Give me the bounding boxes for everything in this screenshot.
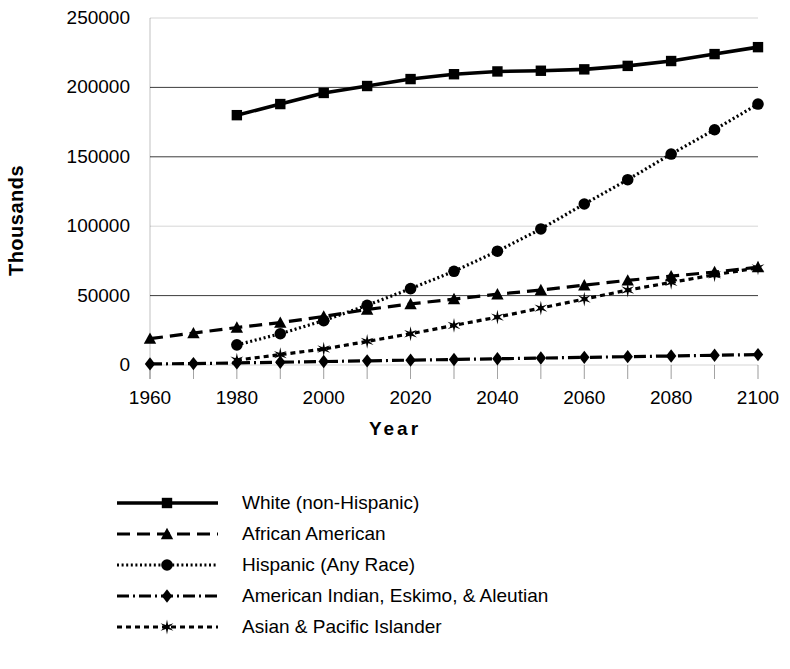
legend-item[interactable]: Hispanic (Any Race) (115, 549, 735, 580)
data-point (448, 318, 461, 333)
data-point (579, 351, 589, 364)
data-point (274, 328, 286, 340)
x-tick-label: 2100 (723, 388, 790, 407)
data-point (448, 266, 460, 278)
series-1 (232, 42, 764, 120)
legend-label: African American (242, 523, 386, 545)
data-point (449, 69, 459, 79)
data-point (709, 49, 719, 59)
legend-label: Hispanic (Any Race) (242, 554, 415, 576)
data-point (579, 64, 589, 74)
y-tick-label: 0 (20, 355, 130, 374)
legend-label: White (non-Hispanic) (242, 492, 419, 514)
data-point (188, 357, 198, 370)
data-point (666, 349, 676, 362)
x-tick-label: 2080 (636, 388, 706, 407)
data-point (535, 223, 547, 235)
data-point (319, 355, 329, 368)
population-projection-chart: Thousands 050000100000150000200000250000… (0, 0, 790, 669)
data-point (665, 148, 677, 160)
series-5 (230, 260, 764, 367)
y-tick-label: 100000 (20, 216, 130, 235)
legend-label: Asian & Pacific Islander (242, 616, 442, 638)
data-point (491, 310, 504, 325)
data-point (578, 292, 591, 307)
data-point (622, 174, 634, 186)
data-point (405, 283, 417, 295)
data-point (666, 56, 676, 66)
y-tick-label: 250000 (20, 8, 130, 27)
legend-key-square-icon (115, 492, 220, 514)
y-tick-label: 200000 (20, 77, 130, 96)
y-axis-tick-labels: 050000100000150000200000250000 (8, 0, 130, 400)
data-point (492, 245, 504, 257)
data-point (623, 61, 633, 71)
legend-key-star-icon (115, 616, 220, 638)
y-tick-label: 50000 (20, 286, 130, 305)
series-line (237, 104, 758, 345)
data-point (275, 99, 285, 109)
data-point (319, 88, 329, 98)
legend-key-diamond-icon (115, 585, 220, 607)
legend-label: American Indian, Eskimo, & Aleutian (242, 585, 548, 607)
data-point (362, 81, 372, 91)
data-point (232, 110, 242, 120)
x-tick-label: 1960 (115, 388, 185, 407)
data-point (492, 66, 502, 76)
data-point (536, 66, 546, 76)
chart-legend: White (non-Hispanic)African AmericanHisp… (115, 487, 735, 642)
data-point (492, 352, 502, 365)
data-point (449, 353, 459, 366)
data-point (405, 74, 415, 84)
x-tick-label: 2060 (549, 388, 619, 407)
legend-item[interactable]: American Indian, Eskimo, & Aleutian (115, 580, 735, 611)
x-tick-label: 2020 (376, 388, 446, 407)
x-tick-label: 2000 (289, 388, 359, 407)
data-point (534, 301, 547, 316)
data-point (536, 351, 546, 364)
data-point (753, 348, 763, 361)
series-line (237, 47, 758, 115)
data-point (578, 198, 590, 210)
legend-item[interactable]: White (non-Hispanic) (115, 487, 735, 518)
legend-key-circle-icon (115, 554, 220, 576)
data-point (753, 42, 763, 52)
x-tick-label: 1980 (202, 388, 272, 407)
data-point (318, 315, 330, 327)
legend-item[interactable]: Asian & Pacific Islander (115, 611, 735, 642)
x-axis-title: Year (0, 418, 790, 440)
data-point (145, 357, 155, 370)
legend-item[interactable]: African American (115, 518, 735, 549)
data-point (231, 339, 243, 351)
data-point (362, 354, 372, 367)
data-point (361, 300, 373, 312)
data-point (623, 350, 633, 363)
x-tick-label: 2040 (462, 388, 532, 407)
data-point (709, 349, 719, 362)
legend-key-triangle-icon (115, 523, 220, 545)
plot-area: Thousands 050000100000150000200000250000… (0, 0, 790, 460)
y-tick-label: 150000 (20, 147, 130, 166)
data-point (709, 124, 721, 136)
data-point (752, 98, 764, 110)
